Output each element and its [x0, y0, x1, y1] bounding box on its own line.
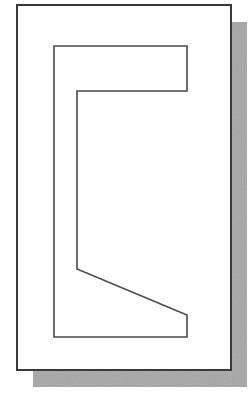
diagram-canvas	[0, 0, 252, 408]
drawing-sheet	[17, 5, 231, 370]
drawing-svg	[0, 0, 252, 408]
